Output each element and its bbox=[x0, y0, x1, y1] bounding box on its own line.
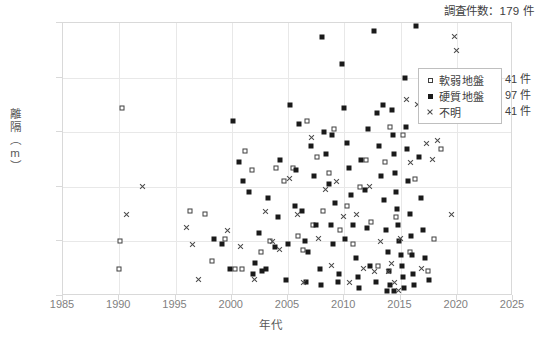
data-point bbox=[386, 250, 391, 255]
gridline-horizontal bbox=[63, 187, 511, 188]
data-point bbox=[223, 236, 228, 241]
data-point bbox=[360, 265, 367, 272]
x-axis-tick-mark bbox=[512, 295, 513, 300]
data-point bbox=[364, 225, 369, 230]
data-point bbox=[373, 280, 378, 285]
data-point bbox=[353, 211, 360, 218]
data-point bbox=[123, 211, 130, 218]
data-point bbox=[381, 198, 386, 203]
data-point bbox=[337, 228, 342, 233]
data-point bbox=[346, 165, 351, 170]
data-point bbox=[359, 157, 364, 162]
legend: 軟弱地盤 硬質地盤 不明 bbox=[418, 68, 502, 124]
data-point bbox=[230, 119, 235, 124]
data-point bbox=[371, 29, 376, 34]
data-point bbox=[401, 285, 406, 290]
data-point bbox=[366, 183, 373, 190]
data-point bbox=[406, 179, 411, 184]
data-point bbox=[320, 209, 325, 214]
data-point bbox=[400, 274, 405, 279]
data-point bbox=[314, 223, 319, 228]
data-point bbox=[407, 159, 414, 166]
data-point bbox=[377, 238, 384, 245]
data-point bbox=[329, 132, 334, 137]
data-point bbox=[398, 253, 403, 258]
data-point bbox=[423, 140, 430, 147]
legend-label: 不明 bbox=[439, 104, 462, 120]
data-point bbox=[414, 23, 419, 28]
data-point bbox=[421, 228, 426, 233]
data-point bbox=[263, 266, 268, 271]
data-point bbox=[394, 190, 399, 195]
data-point bbox=[346, 279, 353, 286]
data-point bbox=[328, 262, 335, 269]
data-point bbox=[311, 173, 316, 178]
data-point bbox=[118, 239, 123, 244]
data-point bbox=[351, 242, 356, 247]
data-point bbox=[302, 239, 307, 244]
data-point bbox=[395, 206, 400, 211]
x-axis-tick-mark bbox=[231, 295, 232, 300]
data-point bbox=[371, 268, 378, 275]
data-point bbox=[239, 266, 244, 271]
y-axis-label: 離隔（m） bbox=[6, 108, 22, 173]
scatter-chart-figure: 調査件数：179 件 離隔（m） 年代 02468101985199019952… bbox=[0, 0, 542, 344]
x-axis-tick-mark bbox=[118, 295, 119, 300]
x-axis-tick-mark bbox=[62, 295, 63, 300]
data-point bbox=[400, 132, 405, 137]
data-point bbox=[276, 246, 283, 253]
data-point bbox=[296, 233, 301, 238]
data-point bbox=[250, 168, 255, 173]
data-point bbox=[211, 236, 216, 241]
data-point bbox=[407, 212, 412, 217]
data-point bbox=[300, 279, 307, 286]
data-point bbox=[183, 224, 190, 231]
data-point bbox=[315, 235, 322, 242]
data-point bbox=[418, 265, 425, 272]
data-point bbox=[353, 255, 358, 260]
legend-label: 軟弱地盤 bbox=[439, 72, 484, 88]
data-point bbox=[297, 122, 302, 127]
data-point bbox=[342, 105, 347, 110]
data-point bbox=[410, 272, 415, 277]
data-point bbox=[369, 220, 374, 225]
data-point bbox=[322, 130, 327, 135]
data-point bbox=[139, 183, 146, 190]
data-point bbox=[432, 236, 437, 241]
data-point bbox=[283, 277, 288, 282]
data-point bbox=[385, 268, 392, 275]
gridline-horizontal bbox=[63, 132, 511, 133]
data-point bbox=[315, 154, 320, 159]
data-point bbox=[396, 223, 401, 228]
data-point bbox=[388, 124, 393, 129]
gridline-vertical bbox=[176, 23, 177, 294]
data-point bbox=[395, 287, 402, 294]
data-point bbox=[253, 261, 258, 266]
data-point bbox=[403, 96, 410, 103]
data-point bbox=[365, 127, 370, 132]
legend-count: 97 件 bbox=[505, 87, 542, 103]
legend-label: 硬質地盤 bbox=[439, 88, 484, 104]
legend-count: 41 件 bbox=[505, 71, 542, 87]
data-point bbox=[259, 250, 264, 255]
data-point bbox=[344, 203, 349, 208]
data-point bbox=[389, 108, 394, 113]
data-point bbox=[434, 137, 441, 144]
data-point bbox=[195, 276, 202, 283]
x-axis-label: 年代 bbox=[0, 316, 542, 332]
gridline-vertical bbox=[457, 23, 458, 294]
data-point bbox=[237, 243, 244, 250]
data-point bbox=[202, 212, 207, 217]
data-point bbox=[256, 231, 261, 236]
data-point bbox=[429, 156, 436, 163]
data-point bbox=[322, 186, 329, 193]
data-point bbox=[333, 201, 338, 206]
data-point bbox=[286, 242, 291, 247]
legend-row: 軟弱地盤 bbox=[424, 72, 497, 88]
data-point bbox=[340, 213, 347, 220]
data-point bbox=[451, 33, 458, 40]
legend-counts: 41 件 97 件 41 件 bbox=[505, 68, 542, 122]
data-point bbox=[292, 203, 297, 208]
data-point bbox=[355, 274, 360, 279]
x-axis-tick-mark bbox=[175, 295, 176, 300]
